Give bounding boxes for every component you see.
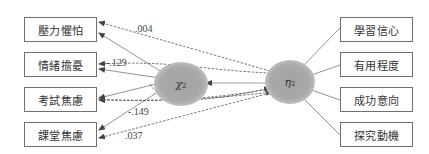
coefficient-label: .004 [135,23,153,34]
latent-chi: χ2 [154,62,208,106]
indicator-label: 學習信心 [354,22,400,38]
indicator-box-stress-fear: 壓力懼怕 [24,17,97,42]
latent-subscript: 2 [182,82,186,90]
indicator-box-inquiry-motivation: 探究動機 [340,122,413,147]
latent-symbol: η [284,76,291,89]
indicator-box-learning-confidence: 學習信心 [340,17,413,42]
indicator-label: 壓力懼怕 [38,22,84,38]
indicator-label: 課堂焦慮 [38,127,84,143]
loading-chi-emotion [99,69,160,78]
latent-subscript: 2 [291,80,295,88]
indicator-label: 有用程度 [354,57,400,73]
indicator-box-exam-anxiety: 考試焦慮 [24,87,97,112]
indicator-label: 考試焦慮 [38,92,84,108]
indicator-box-success-intention: 成功意向 [340,87,413,112]
coefficient-label: -.149 [128,106,149,117]
latent-eta: η2 [265,60,315,104]
coefficient-label: .037 [125,130,143,141]
indicator-label: 探究動機 [354,127,400,143]
indicator-box-usefulness: 有用程度 [340,52,413,77]
indicator-box-emotional-worry: 情緒擔憂 [24,52,97,77]
indicator-label: 情緒擔憂 [38,57,84,73]
latent-symbol: χ [175,78,182,91]
indicator-box-class-anxiety: 課堂焦慮 [24,122,97,147]
indicator-label: 成功意向 [354,92,400,108]
coefficient-label: -.129 [106,57,127,68]
